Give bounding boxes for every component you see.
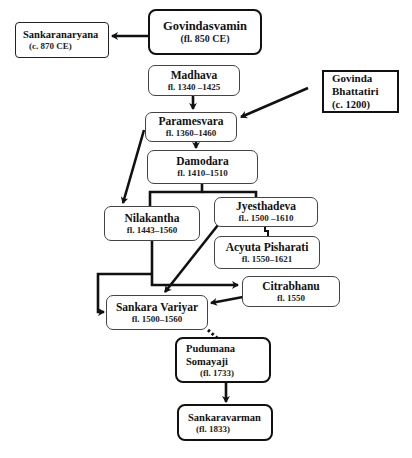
node-date: fl. 1550–1621 — [215, 254, 319, 265]
node-sankara-variyar: Sankara Variyar fl. 1500–1560 — [106, 295, 208, 330]
node-madhava: Madhava fl. 1340 –1425 — [148, 65, 240, 96]
edge-citrabhanu-sankaravariyar — [211, 297, 243, 303]
node-date: (fl. 850 CE) — [150, 33, 260, 44]
node-date: fl. 1410–1510 — [148, 168, 257, 179]
node-date: (c. 1200) — [332, 98, 397, 111]
node-name: Sankara Variyar — [107, 301, 207, 314]
node-name: Nilakantha — [105, 212, 199, 225]
node-citrabhanu: Citrabhanu fl. 1550 — [242, 276, 340, 307]
node-date: fl.. 1500 –1610 — [215, 213, 317, 224]
node-nilakantha: Nilakantha fl. 1443–1560 — [104, 206, 200, 241]
node-name-line1: Govinda — [332, 72, 397, 85]
node-date: fl. 1550 — [243, 293, 339, 304]
node-name: Govindasvamin — [150, 20, 260, 33]
node-name: Jyesthadeva — [215, 200, 317, 213]
node-sankaranaryana: Sankaranaryana (c. 870 CE) — [15, 22, 109, 58]
edge-nilakantha-citrabhanu — [152, 274, 238, 285]
node-name: Madhava — [149, 69, 239, 82]
node-paramesvara: Paramesvara fl. 1360–1460 — [145, 112, 237, 142]
node-date: fl. 1500–1560 — [107, 314, 207, 325]
edge-jyesthadeva-acyuta — [265, 226, 268, 236]
node-date: (c. 870 CE) — [23, 41, 108, 52]
node-acyuta-pisharati: Acyuta Pisharati fl. 1550–1621 — [214, 236, 320, 269]
node-pudumana-somayaji: Pudumana Somayaji (fl. 1733) — [175, 337, 271, 383]
node-govindasvamin: Govindasvamin (fl. 850 CE) — [148, 9, 262, 55]
node-name: Paramesvara — [146, 115, 236, 128]
node-name: Damodara — [148, 155, 257, 168]
node-date: fl. 1443–1560 — [105, 225, 199, 236]
node-date: fl. 1360–1460 — [146, 128, 236, 139]
node-govinda-bhattatiri: Govinda Bhattatiri (c. 1200) — [322, 70, 399, 113]
node-date: fl. 1340 –1425 — [149, 82, 239, 93]
node-damodara: Damodara fl. 1410–1510 — [147, 150, 258, 184]
node-name: Acyuta Pisharati — [215, 241, 319, 254]
edge-paramesvara-nilakantha — [123, 130, 144, 203]
node-sankaravarman: Sankaravarman (fl. 1833) — [177, 404, 273, 441]
node-name: Sankaranaryana — [23, 28, 108, 41]
edge-bhattatiri-paramesvara — [241, 88, 308, 117]
node-name: Sankaravarman — [188, 411, 271, 424]
node-name-line2: Bhattatiri — [332, 85, 397, 98]
node-date: (fl. 1733) — [186, 368, 269, 379]
node-name: Citrabhanu — [243, 280, 339, 293]
edge-damodara-branch — [150, 184, 202, 206]
node-jyesthadeva: Jyesthadeva fl.. 1500 –1610 — [214, 197, 318, 227]
node-date: (fl. 1833) — [188, 424, 271, 435]
node-name: Pudumana Somayaji — [186, 342, 269, 368]
